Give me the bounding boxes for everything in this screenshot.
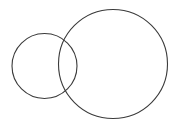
canvas-background xyxy=(0,0,182,126)
figure-canvas xyxy=(0,0,182,126)
diagram-svg xyxy=(0,0,182,126)
